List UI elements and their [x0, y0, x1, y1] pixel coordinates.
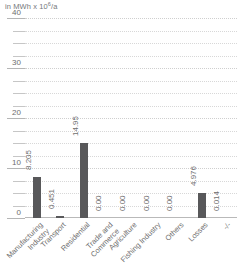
y-axis: 010203040: [0, 18, 25, 218]
bar-slot: 0.014: [213, 18, 237, 218]
bar-value-label: 8.205: [25, 150, 33, 170]
bar[interactable]: [56, 216, 64, 218]
y-axis-tick-minor: [13, 93, 25, 94]
bar[interactable]: [33, 177, 41, 218]
plot-area: 8.2050.45114.950.000.000.000.004.9760.01…: [25, 18, 237, 218]
bar-slot: 0.451: [49, 18, 73, 218]
y-axis-tick-minor: [13, 181, 25, 182]
bar-slot: 0.00: [119, 18, 143, 218]
y-axis-tick-label: 10: [12, 159, 21, 167]
bar[interactable]: [198, 193, 206, 218]
bar-slot: 4.976: [190, 18, 214, 218]
x-label-slot: -/-: [213, 219, 237, 278]
y-axis-tick-label: 20: [12, 109, 21, 117]
bar-value-label: 14.95: [72, 116, 80, 136]
y-axis-tick-label: 30: [12, 59, 21, 67]
bar[interactable]: [80, 143, 88, 218]
bar-chart: in MWh x 106/a 010203040 8.2050.45114.95…: [0, 0, 242, 278]
bar-value-label: 0.451: [48, 189, 56, 209]
y-axis-tick-minor: [13, 56, 25, 57]
y-axis-tick-major: [7, 118, 25, 119]
bar-slot: 14.95: [72, 18, 96, 218]
bar-slot: 0.00: [96, 18, 120, 218]
bar-value-label: 0.014: [213, 191, 221, 211]
bar-value-label: 0.00: [95, 195, 103, 211]
bar-value-label: 0.00: [143, 195, 151, 211]
y-axis-tick-major: [7, 18, 25, 19]
y-axis-tick-minor: [13, 81, 25, 82]
y-axis-tick-label: 0: [17, 209, 21, 217]
y-axis-tick-major: [7, 68, 25, 69]
x-axis-labels: Manufacturing IndustryTransportResidenti…: [25, 219, 237, 278]
y-axis-tick-minor: [13, 31, 25, 32]
y-axis-tick-minor: [13, 106, 25, 107]
y-axis-tick-minor: [13, 43, 25, 44]
bar-slot: 0.00: [143, 18, 167, 218]
bar-value-label: 4.976: [190, 166, 198, 186]
bar-value-label: 0.00: [166, 195, 174, 211]
bar-slot: 0.00: [166, 18, 190, 218]
y-axis-tick-major: [7, 218, 25, 219]
y-axis-tick-label: 40: [12, 9, 21, 17]
y-axis-tick-minor: [13, 143, 25, 144]
y-axis-tick-minor: [13, 193, 25, 194]
y-axis-tick-major: [7, 168, 25, 169]
bar-slot: 8.205: [25, 18, 49, 218]
axis-unit-suffix: /a: [51, 2, 57, 11]
y-axis-tick-minor: [13, 206, 25, 207]
bar-value-label: 0.00: [119, 195, 127, 211]
y-axis-tick-minor: [13, 131, 25, 132]
